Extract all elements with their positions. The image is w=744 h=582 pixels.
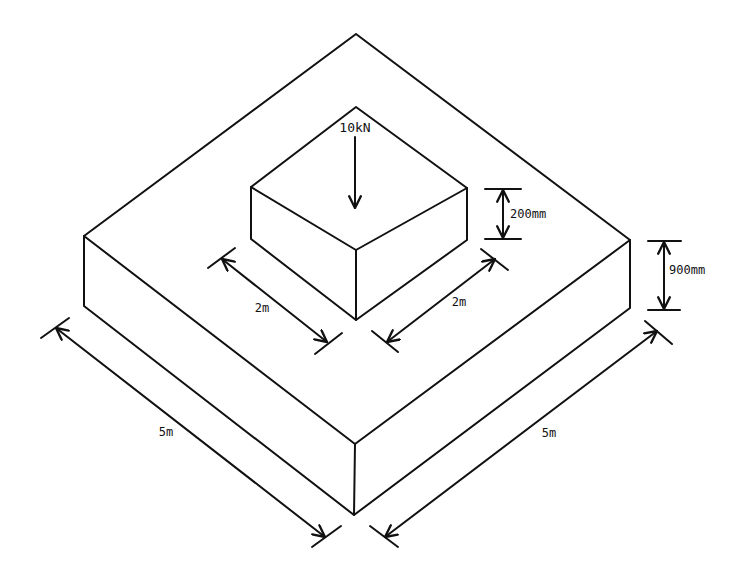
footing-depth-label: 5m bbox=[542, 426, 556, 440]
diagram-canvas: 10kN 200mm 900mm 2m 2m bbox=[0, 0, 744, 582]
pedestal-height-label: 200mm bbox=[510, 207, 546, 221]
footing-diagram: 10kN 200mm 900mm 2m 2m bbox=[0, 0, 744, 582]
pedestal-width-label: 2m bbox=[255, 301, 269, 315]
footing-width-label: 5m bbox=[159, 425, 173, 439]
dim-tick-end bbox=[645, 321, 672, 344]
load-label: 10kN bbox=[339, 120, 370, 135]
footing-thickness-dimension: 900mm bbox=[648, 241, 705, 310]
footing-thickness-label: 900mm bbox=[669, 263, 705, 277]
pedestal-depth-label: 2m bbox=[452, 295, 466, 309]
